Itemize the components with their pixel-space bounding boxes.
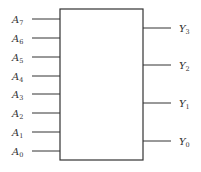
pin-label-subscript: 1 — [186, 103, 190, 111]
pin-label-base: A — [11, 146, 19, 157]
pin-label-base: A — [11, 71, 19, 82]
pin-label-subscript: 1 — [19, 132, 23, 140]
output-pins: Y3Y2Y1Y0 — [143, 23, 190, 150]
pin-label-subscript: 2 — [19, 113, 23, 121]
input-label-A1: A1 — [11, 127, 23, 141]
output-label-Y1: Y1 — [179, 98, 190, 112]
pin-label-subscript: 0 — [186, 141, 190, 149]
pin-label-base: A — [11, 108, 19, 119]
input-label-A4: A4 — [11, 71, 23, 85]
pin-label-subscript: 7 — [19, 19, 23, 27]
pin-label-subscript: 6 — [19, 38, 23, 46]
output-label-Y0: Y0 — [179, 136, 190, 150]
pin-label-base: A — [11, 14, 19, 25]
input-label-A6: A6 — [11, 33, 23, 47]
pin-label-base: A — [11, 127, 19, 138]
pin-label-base: A — [11, 89, 19, 100]
input-label-A7: A7 — [11, 14, 23, 28]
input-label-A3: A3 — [11, 89, 23, 103]
pin-label-subscript: 4 — [19, 76, 23, 84]
input-label-A0: A0 — [11, 146, 23, 160]
input-pins: A7A6A5A4A3A2A1A0 — [11, 14, 60, 160]
input-label-A5: A5 — [11, 52, 23, 66]
pin-label-subscript: 2 — [186, 65, 190, 73]
output-label-Y2: Y2 — [179, 60, 190, 74]
pin-label-base: A — [11, 52, 19, 63]
pin-label-subscript: 0 — [19, 151, 23, 159]
pin-label-subscript: 3 — [186, 28, 190, 36]
pin-label-subscript: 5 — [19, 57, 23, 65]
input-label-A2: A2 — [11, 108, 23, 122]
encoder-diagram: A7A6A5A4A3A2A1A0 Y3Y2Y1Y0 — [0, 0, 201, 172]
output-label-Y3: Y3 — [179, 23, 190, 37]
pin-label-base: A — [11, 33, 19, 44]
pin-label-subscript: 3 — [19, 94, 23, 102]
encoder-block — [60, 9, 143, 160]
